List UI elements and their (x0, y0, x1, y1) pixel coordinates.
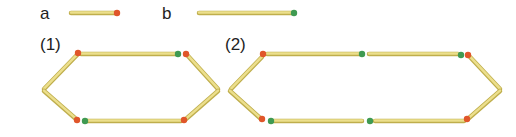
stick-b (81, 51, 181, 57)
stick-a (181, 91, 218, 124)
stick-a (231, 51, 266, 89)
stick-a (44, 50, 81, 89)
stick-a (71, 10, 120, 16)
matchstick-diagram: a b (1) (2) (0, 0, 516, 137)
stick-a (465, 52, 500, 89)
green-head (359, 51, 365, 57)
orange-head (464, 116, 470, 122)
legend-label-a: a (40, 4, 50, 23)
orange-head (181, 117, 187, 123)
figure-1-hexagon (44, 50, 218, 124)
orange-head (260, 51, 266, 57)
figure-2-hexagon (230, 51, 500, 124)
green-head (82, 118, 88, 124)
stick-b (369, 52, 464, 58)
figure-1-label: (1) (40, 35, 61, 54)
stick-b (199, 10, 297, 16)
green-head (458, 52, 464, 58)
green-head (367, 118, 373, 124)
figure-2-label: (2) (225, 35, 246, 54)
green-head (175, 51, 181, 57)
orange-head (183, 51, 189, 57)
orange-head (114, 10, 120, 16)
green-head (268, 118, 274, 124)
stick-a (183, 51, 218, 89)
stick-b (267, 51, 365, 57)
stick-a (230, 91, 265, 123)
green-head (291, 10, 297, 16)
stick-b (367, 118, 464, 124)
orange-head (259, 116, 265, 122)
stick-b (268, 118, 362, 124)
orange-head (465, 52, 471, 58)
stick-b (82, 118, 181, 124)
stick-a (464, 91, 500, 123)
orange-head (75, 50, 81, 56)
stick-a (44, 91, 80, 124)
legend-label-b: b (162, 4, 171, 23)
orange-head (74, 117, 80, 123)
